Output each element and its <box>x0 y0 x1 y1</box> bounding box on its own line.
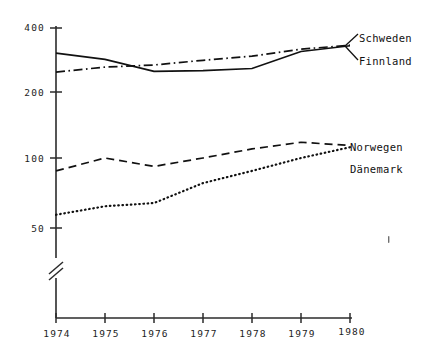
legend-leader-finnland <box>345 46 358 60</box>
legend-label-finnland: Finnland <box>359 55 412 67</box>
y-tick-label-200: 200 <box>24 87 45 98</box>
y-tick-label-400: 400 <box>24 22 45 33</box>
line-chart: 400 200 100 50 1974 1975 1976 1977 1978 … <box>0 0 422 351</box>
series-line-norwegen <box>56 142 350 171</box>
chart-canvas: 400 200 100 50 1974 1975 1976 1977 1978 … <box>0 0 422 351</box>
y-tick-label-50: 50 <box>31 223 45 234</box>
x-tick-label-1977: 1977 <box>190 328 217 339</box>
y-tick-label-100: 100 <box>24 153 45 164</box>
x-tick-label-1975: 1975 <box>92 328 119 339</box>
x-tick-label-1976: 1976 <box>141 328 168 339</box>
legend-label-norwegen: Norwegen <box>350 141 403 153</box>
legend-label-schweden: Schweden <box>359 32 412 44</box>
legend-label-daenemark: Dänemark <box>350 163 403 175</box>
scan-artifact-speck <box>388 236 389 243</box>
x-tick-label-1978: 1978 <box>239 328 266 339</box>
x-tick-label-1979: 1979 <box>288 328 315 339</box>
legend-leader-schweden <box>345 34 358 46</box>
y-axis-break-icon <box>49 262 63 280</box>
x-tick-label-1974: 1974 <box>43 328 70 339</box>
x-tick-label-1980: 1980 <box>338 326 365 337</box>
